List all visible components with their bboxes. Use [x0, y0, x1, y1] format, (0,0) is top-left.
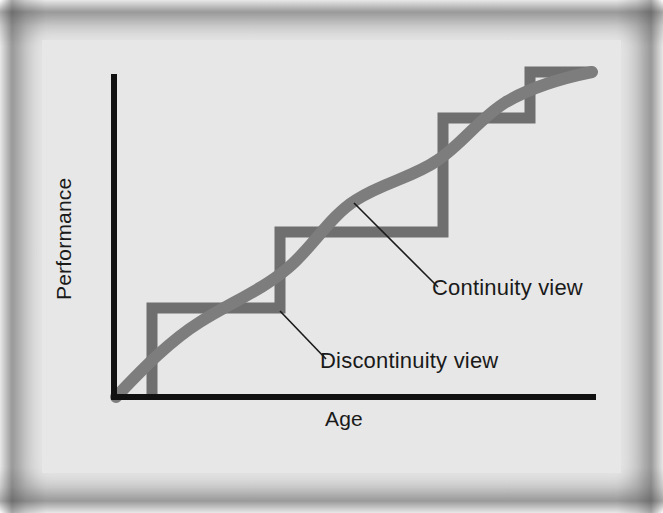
annotation-leader-lines — [280, 203, 438, 359]
continuity-view-annotation: Continuity view — [432, 275, 583, 301]
figure-container: Performance Age Continuity view Disconti… — [0, 0, 663, 513]
y-axis-label: Performance — [52, 178, 76, 300]
plot-area — [0, 0, 663, 513]
discontinuity-view-annotation: Discontinuity view — [320, 348, 498, 374]
x-axis-label: Age — [325, 407, 363, 431]
continuity-leader-line — [354, 203, 438, 287]
